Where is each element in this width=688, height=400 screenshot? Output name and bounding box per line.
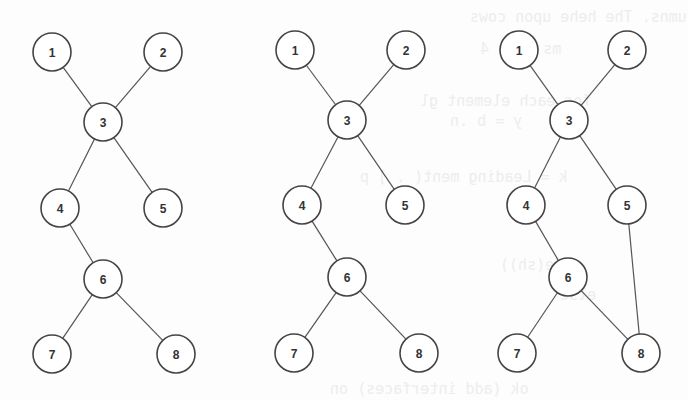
- node-3: 3: [550, 101, 588, 139]
- node-label: 1: [292, 44, 299, 58]
- edge-6-7: [63, 295, 93, 339]
- node-label: 2: [624, 44, 631, 58]
- edge-3-5: [358, 136, 395, 190]
- node-5: 5: [386, 186, 424, 224]
- node-3: 3: [84, 103, 122, 141]
- node-label: 2: [160, 46, 167, 60]
- node-5: 5: [608, 186, 646, 224]
- node-label: 5: [624, 199, 631, 213]
- node-7: 7: [33, 335, 71, 373]
- graph-1: 12345678: [33, 33, 195, 373]
- edge-6-8: [116, 293, 162, 341]
- edge-3-5: [580, 136, 617, 190]
- edge-4-6: [70, 224, 93, 262]
- node-label: 7: [291, 347, 298, 361]
- node-label: 1: [516, 44, 523, 58]
- node-1: 1: [33, 33, 71, 71]
- edge-4-6: [536, 221, 559, 260]
- node-8: 8: [157, 335, 195, 373]
- edge-3-4: [535, 137, 561, 188]
- edge-4-6: [312, 221, 337, 261]
- edge-1-3: [63, 67, 92, 106]
- graph-3: 12345678: [498, 31, 660, 372]
- node-4: 4: [41, 189, 79, 227]
- edge-2-3: [115, 66, 150, 107]
- node-2: 2: [608, 31, 646, 69]
- edge-5-8: [629, 224, 639, 334]
- edge-3-4: [311, 137, 338, 188]
- node-label: 4: [299, 199, 306, 213]
- node-6: 6: [549, 258, 587, 296]
- node-label: 5: [402, 199, 409, 213]
- node-3: 3: [328, 101, 366, 139]
- edge-2-3: [581, 65, 615, 106]
- node-label: 6: [100, 273, 107, 287]
- node-label: 5: [160, 202, 167, 216]
- node-7: 7: [275, 334, 313, 372]
- edge-1-3: [306, 65, 335, 104]
- node-label: 3: [100, 116, 107, 130]
- node-label: 4: [523, 199, 530, 213]
- node-2: 2: [387, 31, 425, 69]
- node-label: 3: [344, 114, 351, 128]
- node-6: 6: [328, 258, 366, 296]
- node-7: 7: [498, 334, 536, 372]
- edge-6-8: [360, 291, 406, 339]
- edge-6-8: [581, 291, 628, 340]
- node-label: 7: [49, 348, 56, 362]
- node-4: 4: [507, 186, 545, 224]
- edge-6-7: [305, 293, 336, 338]
- node-label: 8: [173, 348, 180, 362]
- node-6: 6: [84, 260, 122, 298]
- node-8: 8: [400, 334, 438, 372]
- node-label: 4: [57, 202, 64, 216]
- node-label: 1: [49, 46, 56, 60]
- edge-3-4: [68, 139, 94, 191]
- node-1: 1: [276, 31, 314, 69]
- node-label: 6: [565, 271, 572, 285]
- node-2: 2: [144, 33, 182, 71]
- node-label: 2: [403, 44, 410, 58]
- edge-1-3: [530, 65, 558, 104]
- edge-3-5: [114, 138, 152, 193]
- node-5: 5: [144, 189, 182, 227]
- node-label: 3: [566, 114, 573, 128]
- node-label: 7: [514, 347, 521, 361]
- node-label: 8: [638, 347, 645, 361]
- graph-2: 12345678: [275, 31, 438, 372]
- node-label: 8: [416, 347, 423, 361]
- node-8: 8: [622, 334, 660, 372]
- edge-6-7: [528, 293, 558, 337]
- node-4: 4: [283, 186, 321, 224]
- node-1: 1: [500, 31, 538, 69]
- node-label: 6: [344, 271, 351, 285]
- graph-figure: 123456781234567812345678: [0, 0, 688, 400]
- edge-2-3: [359, 65, 394, 106]
